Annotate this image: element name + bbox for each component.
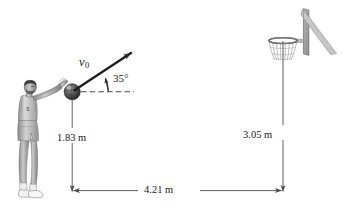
basketball-hoop-assembly (269, 9, 337, 61)
horizontal-distance-label: 4.21 m (144, 185, 173, 196)
initial-velocity-symbol: v (79, 55, 85, 69)
initial-velocity-label: v0 (79, 56, 89, 70)
launch-angle-label: 35° (113, 73, 128, 84)
initial-velocity-subscript: 0 (85, 60, 89, 70)
release-height-label: 1.83 m (57, 133, 86, 144)
basketball (64, 84, 80, 100)
hoop-height-label: 3.05 m (243, 130, 272, 141)
launch-angle-indicator (105, 78, 108, 92)
diagram-canvas: 5 (0, 0, 343, 214)
